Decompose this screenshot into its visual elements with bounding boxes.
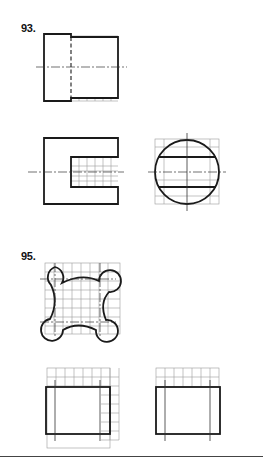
fig95-front-view [46,368,119,448]
page-bottom-rule [0,456,263,457]
fig93-side-view [148,133,226,211]
fig93-top-view [28,138,124,204]
fig95-profile-view [40,263,121,342]
fig95-side-view [156,368,220,441]
fig93-front-view [36,34,127,101]
drawing-canvas [0,0,263,459]
